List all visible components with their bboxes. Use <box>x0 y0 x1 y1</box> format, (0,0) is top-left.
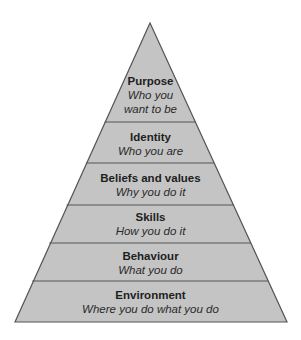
level-subtitle: want to be <box>0 102 301 116</box>
level-title: Environment <box>0 288 301 302</box>
level-subtitle: How you do it <box>0 224 301 238</box>
level-purpose: Purpose Who you want to be <box>0 74 301 116</box>
level-subtitle: Who you <box>0 88 301 102</box>
level-title: Behaviour <box>0 249 301 263</box>
level-subtitle: Where you do what you do <box>0 302 301 316</box>
level-skills: Skills How you do it <box>0 210 301 238</box>
level-identity: Identity Who you are <box>0 130 301 158</box>
level-subtitle: Who you are <box>0 144 301 158</box>
level-title: Beliefs and values <box>0 171 301 185</box>
level-subtitle: Why you do it <box>0 185 301 199</box>
level-title: Skills <box>0 210 301 224</box>
level-beliefs-and-values: Beliefs and values Why you do it <box>0 171 301 199</box>
level-title: Identity <box>0 130 301 144</box>
level-environment: Environment Where you do what you do <box>0 288 301 316</box>
level-title: Purpose <box>0 74 301 88</box>
level-subtitle: What you do <box>0 263 301 277</box>
level-behaviour: Behaviour What you do <box>0 249 301 277</box>
